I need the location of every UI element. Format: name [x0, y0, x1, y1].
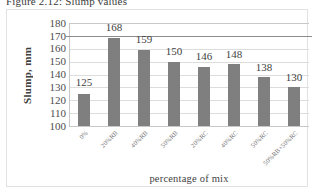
bar-slot: 125 [69, 23, 99, 126]
bar[interactable] [288, 87, 300, 126]
y-tick-label: 140 [40, 69, 66, 80]
bar[interactable] [228, 64, 240, 126]
x-tick-label-0: 0% [78, 129, 89, 140]
y-axis-title: Slump, mm [21, 44, 35, 106]
bar-slot: 159 [129, 23, 159, 126]
bar[interactable] [168, 62, 180, 126]
y-tick-label: 100 [40, 121, 66, 132]
bar-value-label: 159 [129, 33, 159, 45]
bar-value-label: 146 [189, 50, 219, 62]
bar[interactable] [198, 67, 210, 126]
bar-slot: 130 [279, 23, 309, 126]
bar-slot: 138 [249, 23, 279, 126]
plot-area: 125 168 159 150 146 148 138 130 [69, 23, 309, 126]
x-tick-label-5: 40%RC [219, 129, 239, 149]
bar-slot: 146 [189, 23, 219, 126]
bar-value-label: 168 [99, 21, 129, 33]
x-tick-label-2: 40%RB [129, 129, 149, 149]
bar[interactable] [258, 77, 270, 126]
bar[interactable] [138, 50, 150, 126]
x-axis-title: percentage of mix [69, 173, 309, 184]
x-tick-label-4: 20%RC [189, 129, 209, 149]
bar-slot: 168 [99, 23, 129, 126]
bar-value-label: 148 [219, 48, 249, 60]
bar-value-label: 130 [279, 71, 309, 83]
y-tick-label: 110 [40, 108, 66, 119]
y-tick-label: 180 [40, 18, 66, 29]
y-tick-label: 170 [40, 31, 66, 42]
y-tick-label: 120 [40, 95, 66, 106]
x-axis-tick-labels: 0% 20%RB 40%RB 50%RB 20%RC 40%RC 50%RC 5… [69, 127, 309, 172]
bar-value-label: 125 [69, 76, 99, 88]
y-tick-label: 160 [40, 43, 66, 54]
chart-frame: Slump, mm 180 170 160 150 140 130 120 11… [6, 9, 308, 187]
x-tick-label-1: 20%RB [99, 129, 119, 149]
x-tick-label-6: 50%RC [249, 129, 269, 149]
bar-value-label: 138 [249, 61, 279, 73]
x-tick-label-3: 50%RB [159, 129, 179, 149]
y-tick-label: 150 [40, 56, 66, 67]
y-axis-tick-labels: 180 170 160 150 140 130 120 110 100 [37, 23, 66, 126]
bar[interactable] [78, 94, 90, 126]
bar[interactable] [108, 38, 120, 126]
figure-caption: Figure 2.12: Slump values [6, 0, 127, 7]
bar-slot: 150 [159, 23, 189, 126]
y-tick-label: 130 [40, 82, 66, 93]
bar-value-label: 150 [159, 45, 189, 57]
bar-slot: 148 [219, 23, 249, 126]
